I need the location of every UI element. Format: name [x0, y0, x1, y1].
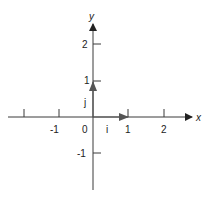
vector-i-label: i	[106, 124, 108, 135]
unit-vector-diagram: x y -1 0 1 2 2 1 -1 i j	[0, 0, 209, 200]
x-tick-label-minus-1: -1	[50, 124, 59, 135]
x-tick-label-1: 1	[125, 124, 131, 135]
vector-j-label: j	[83, 97, 86, 108]
x-tick-label-2: 2	[161, 124, 167, 135]
y-tick-label-2: 2	[82, 39, 88, 50]
x-tick-label-0: 0	[82, 124, 88, 135]
y-axis-label: y	[88, 11, 95, 22]
y-tick-label-1: 1	[84, 75, 90, 86]
x-axis-label: x	[195, 112, 202, 123]
y-tick-label-minus-1: -1	[77, 148, 86, 159]
